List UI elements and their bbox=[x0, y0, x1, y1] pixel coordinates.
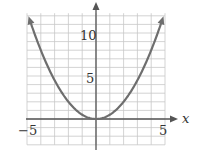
x-axis-label: x bbox=[182, 112, 189, 125]
x-tick-max: 5 bbox=[159, 124, 167, 137]
x-axis-arrow-icon bbox=[170, 116, 178, 123]
y-tick-5: 5 bbox=[86, 72, 94, 85]
curve-arrow-left-icon bbox=[28, 16, 35, 25]
curve-arrow-right-icon bbox=[158, 16, 165, 25]
y-axis-arrow-icon bbox=[93, 2, 100, 10]
y-tick-10: 10 bbox=[80, 29, 97, 42]
x-tick-min: −5 bbox=[18, 124, 37, 137]
